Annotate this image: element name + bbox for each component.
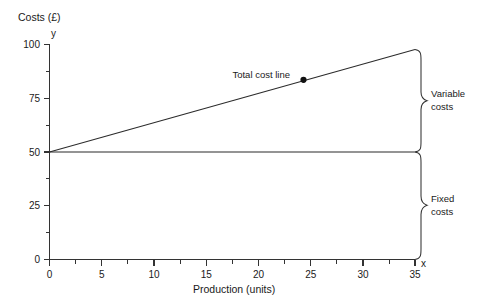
x-tick-label-10: 10 — [148, 269, 160, 280]
fixed-costs-label-line1: Fixed — [431, 193, 454, 204]
total-cost-point-marker — [300, 77, 306, 83]
fixed-costs-brace — [415, 152, 427, 260]
y-tick-label-25: 25 — [29, 200, 41, 211]
y-tick-label-100: 100 — [23, 39, 40, 50]
x-tick-label-5: 5 — [99, 269, 105, 280]
y-axis-tick-labels: 100 75 50 25 0 — [23, 39, 40, 265]
variable-costs-label-line2: costs — [431, 101, 453, 112]
variable-costs-label: Variable costs — [431, 88, 465, 112]
x-tick-label-15: 15 — [201, 269, 213, 280]
x-tick-label-20: 20 — [253, 269, 265, 280]
total-cost-line-annotation: Total cost line — [232, 69, 290, 80]
variable-costs-brace — [415, 50, 427, 153]
total-cost-line — [50, 50, 416, 153]
chart-title: Costs (£) — [18, 11, 61, 23]
x-tick-label-30: 30 — [357, 269, 369, 280]
fixed-costs-label: Fixed costs — [431, 193, 454, 217]
y-axis-major-ticks — [44, 45, 50, 260]
x-axis-letter: x — [421, 258, 426, 269]
chart-canvas: Costs (£) y x Production (units) 100 75 … — [0, 0, 487, 307]
x-axis-minor-ticks — [76, 260, 390, 264]
y-axis-letter: y — [51, 28, 56, 39]
x-tick-label-35: 35 — [409, 269, 421, 280]
x-axis-tick-labels: 0 5 10 15 20 25 30 35 — [47, 269, 421, 280]
fixed-costs-label-line2: costs — [431, 206, 453, 217]
y-tick-label-50: 50 — [29, 147, 41, 158]
cost-behaviour-chart: Costs (£) y x Production (units) 100 75 … — [0, 0, 487, 307]
y-tick-label-75: 75 — [29, 93, 41, 104]
y-tick-label-0: 0 — [34, 254, 40, 265]
x-tick-label-0: 0 — [47, 269, 53, 280]
x-axis-caption: Production (units) — [193, 283, 275, 295]
x-tick-label-25: 25 — [305, 269, 317, 280]
variable-costs-label-line1: Variable — [431, 88, 465, 99]
